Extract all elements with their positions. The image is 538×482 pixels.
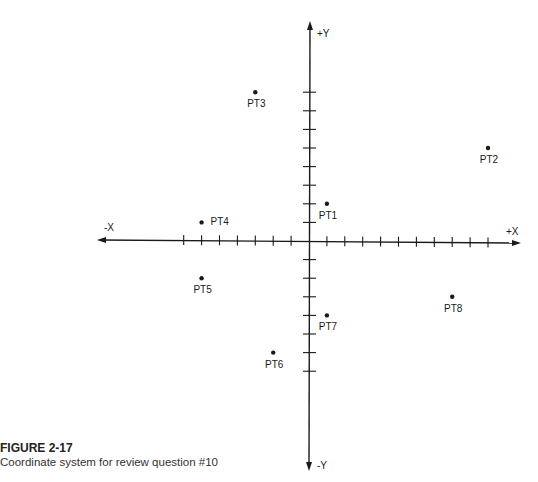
y-positive-label: +Y (317, 28, 330, 39)
point-marker-icon (271, 350, 275, 354)
point-pt1: PT1 (319, 202, 338, 221)
y-positive-arrow-icon (307, 21, 313, 30)
axes (97, 21, 521, 471)
y-negative-arrow-icon (306, 462, 312, 471)
point-label: PT8 (444, 303, 463, 314)
point-pt2: PT2 (480, 146, 499, 165)
point-pt8: PT8 (444, 295, 463, 314)
x-positive-label: +X (506, 226, 519, 237)
coordinate-plot: PT1PT2PT3PT4PT5PT6PT7PT8 +X -X +Y -Y (0, 0, 538, 482)
point-marker-icon (325, 313, 329, 317)
x-negative-label: -X (104, 222, 114, 233)
point-pt6: PT6 (265, 350, 284, 369)
point-marker-icon (253, 90, 257, 94)
figure-caption: FIGURE 2-17 Coordinate system for review… (0, 441, 218, 469)
point-label: PT4 (211, 216, 230, 227)
x-negative-arrow-icon (97, 237, 106, 243)
point-marker-icon (450, 295, 454, 299)
point-pt3: PT3 (247, 90, 266, 109)
point-pt4: PT4 (199, 216, 229, 227)
x-positive-arrow-icon (512, 240, 521, 246)
point-marker-icon (325, 202, 329, 206)
point-label: PT3 (247, 98, 266, 109)
point-pt5: PT5 (193, 276, 212, 295)
point-label: PT7 (319, 321, 338, 332)
point-marker-icon (486, 146, 490, 150)
y-negative-label: -Y (317, 460, 327, 471)
x-axis-line (100, 240, 516, 243)
point-marker-icon (199, 220, 203, 224)
figure-description: Coordinate system for review question #1… (0, 455, 218, 469)
point-label: PT5 (193, 284, 212, 295)
point-pt7: PT7 (319, 313, 338, 332)
points: PT1PT2PT3PT4PT5PT6PT7PT8 (193, 90, 498, 370)
point-label: PT2 (480, 154, 499, 165)
point-marker-icon (199, 276, 203, 280)
point-label: PT1 (319, 210, 338, 221)
point-label: PT6 (265, 359, 284, 370)
figure-number: FIGURE 2-17 (0, 441, 218, 455)
